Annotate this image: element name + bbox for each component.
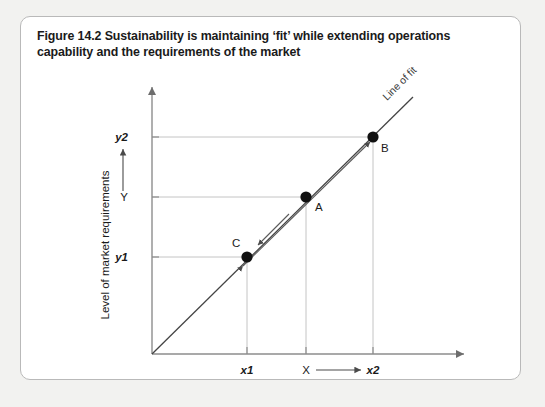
label-x1: x1 — [240, 364, 254, 376]
figure-card: Figure 14.2 Sustainability is maintainin… — [20, 16, 521, 380]
y-axis-title: Level of market requirements — [99, 170, 111, 319]
label-y1: y1 — [114, 251, 128, 263]
figure-caption: Figure 14.2 Sustainability is maintainin… — [37, 28, 505, 61]
label-point-b: B — [381, 142, 389, 154]
label-x-mid: X — [302, 364, 310, 376]
data-point-a[interactable] — [300, 191, 311, 202]
label-point-c: C — [232, 237, 240, 249]
label-y2: y2 — [114, 131, 128, 143]
decline-arrow-a-to-c — [258, 214, 289, 245]
data-point-b[interactable] — [367, 131, 378, 142]
fit-diagram-svg: C A B Line of fit y2 Y y1 x1 X x2 Level … — [21, 63, 520, 379]
label-y-mid: Y — [120, 191, 128, 203]
label-x2: x2 — [366, 364, 380, 376]
chart-area: C A B Line of fit y2 Y y1 x1 X x2 Level … — [21, 63, 520, 379]
data-point-c[interactable] — [241, 251, 252, 262]
label-point-a: A — [315, 201, 323, 213]
label-line-of-fit: Line of fit — [380, 64, 419, 103]
